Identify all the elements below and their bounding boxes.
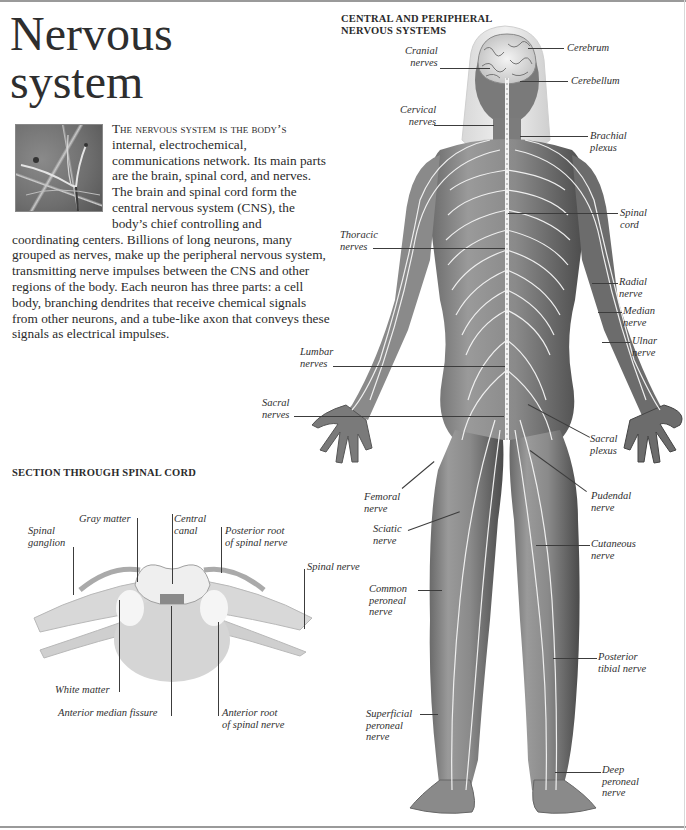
leader-spinal-cord — [508, 213, 618, 214]
label-text-line: Spinal — [620, 207, 647, 219]
label-text-line: canal — [174, 525, 206, 537]
label-text-line: Posterior root — [225, 525, 287, 537]
label-text-line: nerve — [591, 550, 636, 562]
label-lumbar-nerves: Lumbarnerves — [300, 346, 333, 369]
label-text-line: ganglion — [28, 537, 65, 549]
label-text-line: nerve — [619, 288, 647, 300]
label-text-line: Brachial — [590, 130, 627, 142]
leader-central-canal — [172, 514, 173, 584]
label-text-line: Cerebrum — [567, 42, 609, 54]
label-text-line: peroneal — [602, 776, 639, 788]
label-posterior-root: Posterior rootof spinal nerve — [225, 525, 287, 548]
label-text-line: Central — [174, 513, 206, 525]
label-text-line: plexus — [590, 142, 627, 154]
label-cervical-nerves: Cervicalnerves — [400, 104, 436, 127]
label-text-line: plexus — [590, 445, 617, 457]
leader-cerebrum — [528, 48, 564, 49]
label-text-line: peroneal — [369, 595, 407, 607]
label-text-line: nerves — [262, 409, 289, 421]
label-text-line: Cutaneous — [591, 538, 636, 550]
leader-lumbar — [333, 366, 505, 367]
label-text-line: of spinal nerve — [222, 719, 284, 731]
label-brachial-plexus: Brachialplexus — [590, 130, 627, 153]
label-pudendal-nerve: Pudendalnerve — [591, 490, 631, 513]
label-text-line: Anterior median fissure — [58, 707, 157, 719]
label-text-line: White matter — [55, 684, 110, 696]
spinal-section-heading: SECTION THROUGH SPINAL CORD — [12, 467, 196, 479]
label-deep-peroneal-nerve: Deepperonealnerve — [602, 764, 639, 799]
leader-sacral — [294, 416, 504, 417]
leader-brachial-plexus — [520, 136, 588, 137]
label-text-line: Thoracic — [340, 229, 378, 241]
label-text-line: Common — [369, 583, 407, 595]
label-spinal-nerve: Spinal nerve — [307, 561, 360, 573]
label-text-line: nerves — [400, 116, 436, 128]
label-text-line: peroneal — [366, 720, 412, 732]
leader-deep-peroneal — [555, 772, 601, 773]
leader-white-matter — [119, 600, 120, 692]
label-text-line: nerve — [364, 503, 400, 515]
leader-cranial — [440, 68, 490, 69]
label-text-line: tibial nerve — [598, 663, 646, 675]
leader-spinal-ganglion — [73, 547, 74, 595]
label-common-peroneal-nerve: Commonperonealnerve — [369, 583, 407, 618]
label-text-line: Posterior — [598, 651, 646, 663]
label-white-matter: White matter — [55, 684, 110, 696]
body-figure-heading-line-2: NERVOUS SYSTEMS — [341, 25, 446, 36]
label-text-line: nerve — [623, 317, 655, 329]
leader-median-nerve — [598, 312, 622, 313]
spinal-cord-section-illustration — [34, 565, 312, 682]
label-femoral-nerve: Femoralnerve — [364, 491, 400, 514]
leader-posterior-tibial — [553, 658, 597, 659]
label-text-line: Sacral — [590, 433, 617, 445]
label-text-line: Deep — [602, 764, 639, 776]
label-sacral-nerves: Sacralnerves — [262, 397, 289, 420]
label-text-line: Femoral — [364, 491, 400, 503]
label-text-line: nerve — [369, 606, 407, 618]
label-text-line: Sciatic — [373, 523, 402, 535]
label-text-line: nerve — [632, 347, 657, 359]
label-text-line: Sacral — [262, 397, 289, 409]
label-text-line: Superficial — [366, 708, 412, 720]
label-text-line: Cervical — [400, 104, 436, 116]
label-text-line: nerves — [300, 358, 333, 370]
body-figure-heading-line-1: CENTRAL AND PERIPHERAL — [341, 13, 492, 24]
label-text-line: cord — [620, 219, 647, 231]
label-median-nerve: Mediannerve — [623, 305, 655, 328]
label-cerebellum: Cerebellum — [571, 75, 620, 87]
leader-posterior-root — [221, 527, 222, 573]
label-sacral-plexus: Sacralplexus — [590, 433, 617, 456]
label-text-line: nerve — [373, 535, 402, 547]
leader-ulnar-nerve — [602, 342, 630, 343]
label-text-line: nerves — [405, 57, 438, 69]
leader-anterior-root — [218, 622, 219, 716]
label-text-line: Median — [623, 305, 655, 317]
leader-cerebellum — [520, 81, 568, 82]
label-text-line: Cerebellum — [571, 75, 620, 87]
label-radial-nerve: Radialnerve — [619, 276, 647, 299]
label-spinal-cord: Spinalcord — [620, 207, 647, 230]
label-text-line: nerve — [591, 502, 631, 514]
label-text-line: Ulnar — [632, 335, 657, 347]
label-cranial-nerves: Cranialnerves — [405, 45, 438, 68]
label-text-line: Cranial — [405, 45, 438, 57]
label-cerebrum: Cerebrum — [567, 42, 609, 54]
leader-spinal-nerve — [304, 569, 305, 629]
leader-gray-matter — [137, 518, 138, 582]
leader-common-peroneal — [418, 590, 442, 591]
label-text-line: Spinal nerve — [307, 561, 360, 573]
label-spinal-ganglion: Spinalganglion — [28, 525, 65, 548]
leader-radial-nerve — [592, 283, 618, 284]
label-superficial-peroneal-nerve: Superficialperonealnerve — [366, 708, 412, 743]
leader-cutaneous-nerve — [536, 545, 590, 546]
label-text-line: Gray matter — [79, 513, 131, 525]
label-anterior-median-fissure: Anterior median fissure — [58, 707, 157, 719]
leader-anterior-median-fissure — [171, 606, 172, 716]
leader-cervical — [434, 125, 494, 126]
label-text-line: Radial — [619, 276, 647, 288]
label-central-canal: Centralcanal — [174, 513, 206, 536]
body-nervous-system-illustration — [0, 0, 686, 830]
label-text-line: of spinal nerve — [225, 537, 287, 549]
label-text-line: nerve — [602, 787, 639, 799]
leader-thoracic — [373, 248, 505, 249]
